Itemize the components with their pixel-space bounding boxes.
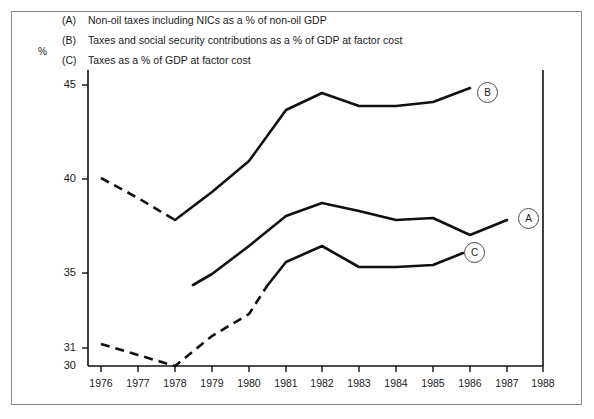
series-b-dashed xyxy=(101,178,175,220)
x-tick-label-1978: 1978 xyxy=(155,377,195,389)
y-tick-label-35: 35 xyxy=(46,266,76,278)
chart-page: (A) Non-oil taxes including NICs as a % … xyxy=(0,0,594,419)
x-tick-label-1985: 1985 xyxy=(413,377,453,389)
y-tick-label-45: 45 xyxy=(46,78,76,90)
x-tick-label-1983: 1983 xyxy=(339,377,379,389)
series-c-dashed xyxy=(101,286,267,366)
series-badge-c: C xyxy=(464,242,485,263)
legend-item-c: (C) Taxes as a % of GDP at factor cost xyxy=(62,54,482,74)
x-tick-label-1977: 1977 xyxy=(118,377,158,389)
x-tick-label-1986: 1986 xyxy=(450,377,490,389)
legend-key-c: (C) xyxy=(62,54,88,66)
legend: (A) Non-oil taxes including NICs as a % … xyxy=(62,14,482,74)
series-badge-a: A xyxy=(518,208,539,229)
legend-label-a: Non-oil taxes including NICs as a % of n… xyxy=(88,14,482,26)
series-b-solid xyxy=(175,88,470,220)
x-tick-label-1976: 1976 xyxy=(81,377,121,389)
y-tick-marks xyxy=(82,85,88,348)
legend-item-a: (A) Non-oil taxes including NICs as a % … xyxy=(62,14,482,34)
series-a-solid xyxy=(193,203,507,285)
legend-label-b: Taxes and social security contributions … xyxy=(88,34,482,46)
legend-key-b: (B) xyxy=(62,34,88,46)
y-tick-label-30: 30 xyxy=(46,359,76,371)
x-tick-label-1987: 1987 xyxy=(487,377,527,389)
legend-key-a: (A) xyxy=(62,14,88,26)
x-tick-label-1981: 1981 xyxy=(266,377,306,389)
x-tick-label-1988: 1988 xyxy=(523,377,563,389)
y-tick-label-31: 31 xyxy=(46,341,76,353)
x-tick-label-1979: 1979 xyxy=(192,377,232,389)
series-c-solid xyxy=(267,246,463,286)
y-tick-label-40: 40 xyxy=(46,172,76,184)
x-tick-label-1980: 1980 xyxy=(229,377,269,389)
x-tick-label-1984: 1984 xyxy=(376,377,416,389)
legend-label-c: Taxes as a % of GDP at factor cost xyxy=(88,54,482,66)
x-tick-marks xyxy=(101,366,543,372)
series-badge-b: B xyxy=(477,82,498,103)
x-tick-label-1982: 1982 xyxy=(302,377,342,389)
legend-item-b: (B) Taxes and social security contributi… xyxy=(62,34,482,54)
y-axis-unit-label: % xyxy=(38,46,47,57)
